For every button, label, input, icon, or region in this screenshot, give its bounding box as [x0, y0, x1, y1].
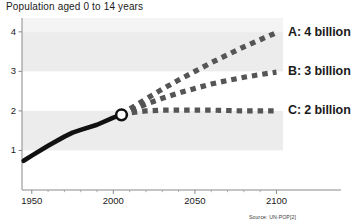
y-tick-label: 3 — [2, 65, 16, 76]
x-tick-label: 2000 — [93, 195, 133, 206]
series-label-c: C: 2 billion — [288, 103, 351, 117]
y-tick-label: 2 — [2, 105, 16, 116]
series-label-b: B: 3 billion — [288, 64, 351, 78]
source-note: Source: UN-POP[2] — [249, 214, 296, 220]
y-tick-label: 1 — [2, 144, 16, 155]
y-tick-label: 4 — [2, 26, 16, 37]
series-label-a: A: 4 billion — [288, 25, 351, 39]
branch-point-marker — [116, 109, 127, 120]
x-tick-label: 2050 — [175, 195, 215, 206]
x-tick-label: 2100 — [256, 195, 296, 206]
background-bands — [22, 18, 283, 150]
x-tick-label: 1950 — [12, 195, 52, 206]
